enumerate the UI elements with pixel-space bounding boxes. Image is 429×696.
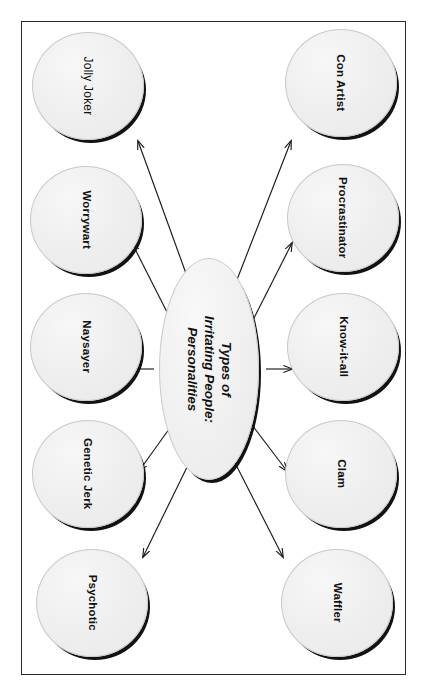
node-label: Genetic Jerk	[82, 438, 94, 509]
center-title-line-3: Personalities	[184, 315, 201, 422]
center-title-line-1: Types of	[217, 315, 234, 422]
node-procrastinator[interactable]: Procrastinator	[287, 164, 399, 272]
node-label: Con Artist	[335, 54, 347, 111]
center-title-text: Types of Irritating People: Personalitie…	[184, 315, 235, 422]
center-title-line-2: Irritating People:	[201, 315, 218, 422]
node-genetic-jerk[interactable]: Genetic Jerk	[32, 420, 144, 528]
diagram-canvas: Jolly Joker Worrywart Naysayer Genetic J…	[0, 0, 429, 696]
node-label: Worrywart	[80, 191, 92, 249]
node-clam[interactable]: Clam	[285, 420, 397, 528]
node-label: Psychotic	[86, 575, 98, 631]
node-con-artist[interactable]: Con Artist	[285, 29, 397, 137]
node-label: Waffler	[331, 583, 343, 623]
node-label: Clam	[335, 460, 347, 489]
node-label: Jolly Joker	[82, 57, 94, 116]
node-psychotic[interactable]: Psychotic	[36, 549, 148, 657]
node-label: Procrastinator	[337, 177, 349, 258]
node-jolly-joker[interactable]: Jolly Joker	[32, 32, 144, 140]
node-label: Know-it-all	[337, 317, 349, 378]
node-waffler[interactable]: Waffler	[281, 549, 393, 657]
node-worrywart[interactable]: Worrywart	[30, 166, 142, 274]
node-know-it-all[interactable]: Know-it-all	[287, 293, 399, 401]
node-label: Naysayer	[80, 321, 92, 374]
node-naysayer[interactable]: Naysayer	[30, 293, 142, 401]
node-center-title[interactable]: Types of Irritating People: Personalitie…	[159, 258, 259, 480]
